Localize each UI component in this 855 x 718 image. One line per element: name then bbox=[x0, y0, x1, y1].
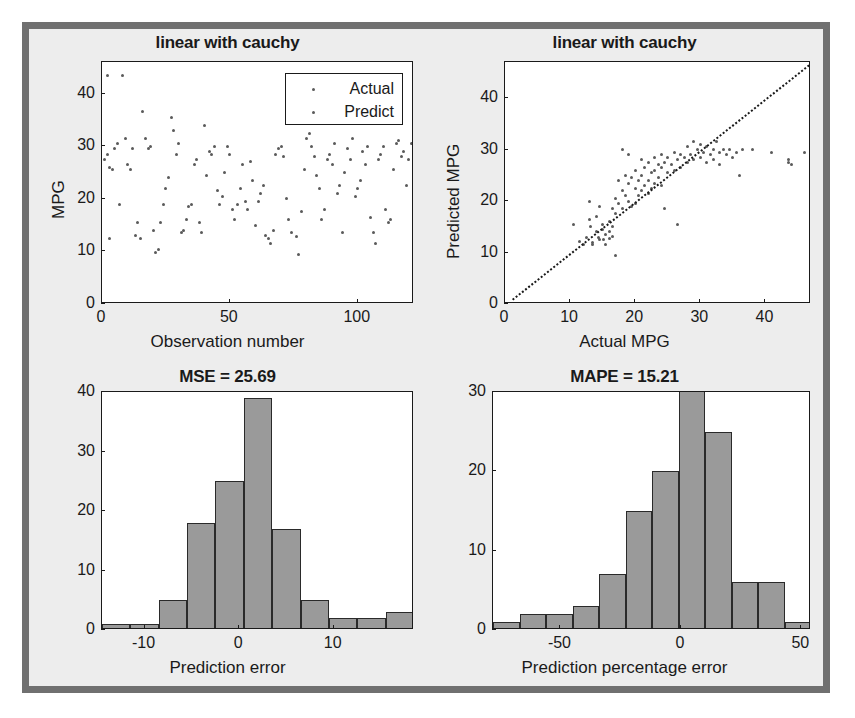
scatter-point bbox=[591, 243, 594, 246]
legend-entry[interactable]: Actual bbox=[286, 78, 402, 100]
histogram-bar bbox=[679, 391, 706, 629]
scatter-point bbox=[663, 207, 666, 210]
scatter-point bbox=[660, 153, 663, 156]
scatter-point bbox=[310, 145, 313, 148]
x-tickmark bbox=[144, 625, 145, 629]
scatter-point bbox=[251, 179, 254, 182]
scatter-point bbox=[377, 158, 380, 161]
scatter-point bbox=[131, 147, 134, 150]
scatter-point bbox=[715, 140, 718, 143]
y-tickmark bbox=[492, 470, 496, 471]
axes-prediction-error-histogram[interactable] bbox=[101, 391, 413, 629]
y-tick-label: 0 bbox=[71, 620, 95, 638]
scatter-point bbox=[233, 218, 236, 221]
scatter-point bbox=[182, 229, 185, 232]
scatter-point bbox=[195, 158, 198, 161]
axes-prediction-percentage-error-histogram[interactable] bbox=[492, 391, 810, 629]
scatter-point bbox=[389, 218, 392, 221]
scatter-point bbox=[627, 182, 630, 185]
scatter-point bbox=[231, 208, 234, 211]
scatter-point bbox=[647, 161, 650, 164]
y-tickmark bbox=[504, 97, 508, 98]
scatter-point bbox=[198, 221, 201, 224]
legend-box[interactable]: ActualPredict bbox=[285, 73, 403, 125]
scatter-point bbox=[366, 145, 369, 148]
scatter-point bbox=[162, 203, 165, 206]
histogram-bar bbox=[130, 624, 158, 629]
histogram-bar bbox=[301, 600, 329, 629]
scatter-point bbox=[617, 202, 620, 205]
scatter-point bbox=[187, 205, 190, 208]
y-tickmark bbox=[101, 451, 105, 452]
scatter-point bbox=[624, 194, 627, 197]
scatter-point bbox=[157, 248, 160, 251]
scatter-point bbox=[640, 174, 643, 177]
scatter-point bbox=[657, 176, 660, 179]
y-tick-label: 10 bbox=[71, 561, 95, 579]
scatter-point bbox=[608, 230, 611, 233]
scatter-point bbox=[382, 145, 385, 148]
scatter-point bbox=[738, 174, 741, 177]
scatter-point bbox=[679, 153, 682, 156]
scatter-point bbox=[282, 155, 285, 158]
scatter-point bbox=[106, 153, 109, 156]
x-tickmark bbox=[238, 625, 239, 629]
scatter-point bbox=[751, 148, 754, 151]
scatter-point bbox=[116, 142, 119, 145]
scatter-point bbox=[741, 148, 744, 151]
scatter-point bbox=[267, 237, 270, 240]
histogram-bar bbox=[272, 529, 300, 629]
scatter-point bbox=[627, 200, 630, 203]
y-tickmark bbox=[492, 391, 496, 392]
scatter-point bbox=[604, 233, 607, 236]
scatter-point bbox=[308, 132, 311, 135]
y-tickmark bbox=[101, 510, 105, 511]
y-tickmark bbox=[101, 303, 105, 304]
scatter-point bbox=[172, 129, 175, 132]
axis-label-x-actual-vs-predicted: Actual MPG bbox=[426, 332, 823, 352]
scatter-point bbox=[303, 168, 306, 171]
scatter-point bbox=[611, 235, 614, 238]
scatter-point bbox=[241, 163, 244, 166]
histogram-bar bbox=[758, 582, 785, 629]
scatter-point bbox=[676, 158, 679, 161]
scatter-point bbox=[341, 231, 344, 234]
scatter-point bbox=[621, 148, 624, 151]
y-tick-label: 10 bbox=[71, 241, 95, 259]
y-tick-label: 40 bbox=[474, 88, 498, 106]
scatter-point bbox=[702, 151, 705, 154]
scatter-point bbox=[611, 225, 614, 228]
scatter-point bbox=[643, 166, 646, 169]
scatter-point bbox=[200, 231, 203, 234]
y-tickmark bbox=[504, 303, 508, 304]
scatter-point bbox=[405, 184, 408, 187]
y-tickmark bbox=[101, 629, 105, 630]
scatter-point bbox=[170, 116, 173, 119]
y-tickmark bbox=[504, 149, 508, 150]
scatter-point bbox=[239, 187, 242, 190]
legend-entry[interactable]: Predict bbox=[286, 101, 402, 123]
scatter-point bbox=[595, 215, 598, 218]
scatter-point bbox=[364, 163, 367, 166]
x-tick-label: -50 bbox=[548, 634, 571, 652]
scatter-point bbox=[343, 171, 346, 174]
scatter-point bbox=[328, 153, 331, 156]
scatter-point bbox=[402, 150, 405, 153]
scatter-point bbox=[660, 166, 663, 169]
scatter-point bbox=[323, 208, 326, 211]
scatter-point bbox=[699, 156, 702, 159]
scatter-point bbox=[300, 210, 303, 213]
scatter-point bbox=[124, 137, 127, 140]
y-tickmark bbox=[101, 145, 105, 146]
scatter-point bbox=[159, 221, 162, 224]
scatter-point bbox=[338, 184, 341, 187]
scatter-point bbox=[154, 251, 157, 254]
scatter-point bbox=[643, 184, 646, 187]
axes-actual-vs-predicted[interactable] bbox=[504, 61, 810, 303]
scatter-point bbox=[305, 137, 308, 140]
identity-reference-line bbox=[512, 62, 811, 300]
scatter-point bbox=[650, 171, 653, 174]
scatter-point bbox=[663, 161, 666, 164]
scatter-point bbox=[356, 187, 359, 190]
scatter-point bbox=[722, 148, 725, 151]
